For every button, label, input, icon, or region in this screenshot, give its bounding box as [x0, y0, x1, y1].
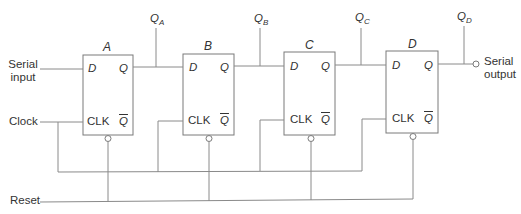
flip-flop-a-q-pin: Q: [119, 62, 128, 74]
flip-flop-c-d-pin: D: [290, 60, 298, 72]
flip-flop-a-clk-pin: CLK: [87, 115, 109, 127]
clock-branch-d: [362, 119, 386, 171]
reset-bus: [40, 199, 413, 202]
flip-flop-d-qbar-pin: Q: [424, 112, 433, 124]
shift-register-schematic: [0, 0, 521, 214]
flip-flop-b-clk-pin: CLK: [188, 114, 210, 126]
flip-flop-a-qbar-pin: Q: [119, 115, 128, 127]
reset-bubble-b: [206, 136, 212, 142]
flip-flop-d-d-pin: D: [392, 59, 400, 71]
flip-flop-d-clk-pin: CLK: [392, 112, 414, 124]
serial-input-label: Serial input: [6, 58, 40, 84]
clock-label: Clock: [9, 115, 38, 128]
flip-flop-b-q-pin: Q: [220, 61, 229, 73]
flip-flop-d-title: D: [408, 37, 417, 51]
flip-flop-b-title: B: [204, 39, 212, 53]
flip-flop-b-d-pin: D: [189, 61, 197, 73]
flip-flop-c-qbar-pin: Q: [321, 113, 330, 125]
serial-output-label: Serial output: [484, 55, 516, 81]
qc-output-label: QC: [355, 11, 370, 28]
clock-branch-b: [158, 121, 183, 172]
flip-flop-a-d-pin: D: [88, 62, 96, 74]
flip-flop-b-qbar-pin: Q: [220, 114, 229, 126]
qd-output-label: QD: [457, 10, 472, 27]
reset-bubble-c: [308, 136, 314, 142]
flip-flop-c-clk-pin: CLK: [290, 113, 312, 125]
flip-flop-c-title: C: [305, 38, 314, 52]
flip-flop-d-q-pin: Q: [424, 59, 433, 71]
flip-flop-a-title: A: [103, 40, 111, 54]
serial-output-terminal: [473, 61, 479, 67]
reset-bubble-d: [410, 134, 416, 140]
flip-flop-c-q-pin: Q: [321, 60, 330, 72]
clock-branch-c: [260, 120, 284, 171]
qb-output-label: QB: [254, 12, 268, 29]
reset-label: Reset: [10, 194, 40, 207]
clock-bus: [58, 171, 362, 172]
reset-bubble-a: [105, 136, 111, 142]
qa-output-label: QA: [150, 12, 164, 29]
